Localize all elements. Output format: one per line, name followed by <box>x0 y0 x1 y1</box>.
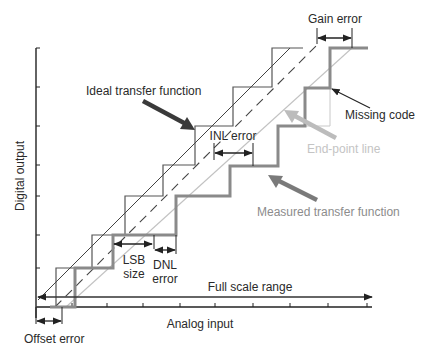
dnl-label-line1: DNL <box>153 258 177 272</box>
endpoint-label: End-point line <box>307 142 381 156</box>
adc-transfer-diagram: Full scale range Offset error Analog inp… <box>0 0 422 358</box>
measured-label: Measured transfer function <box>257 205 400 219</box>
ideal-pointer-arrow <box>143 101 186 124</box>
inl-error-label: INL error <box>210 129 257 143</box>
inl-error-arrow <box>214 143 253 166</box>
x-axis-label: Analog input <box>167 317 234 331</box>
full-scale-label: Full scale range <box>208 280 293 294</box>
measured-pointer-arrow <box>277 180 317 200</box>
gain-error-arrow <box>317 28 352 48</box>
x-axis <box>36 303 372 307</box>
y-axis <box>36 48 40 318</box>
missing-code-label: Missing code <box>345 108 415 122</box>
offset-error-label: Offset error <box>24 332 84 346</box>
ideal-label: Ideal transfer function <box>86 84 201 98</box>
offset-error-arrow <box>36 307 62 324</box>
missing-code-arrow <box>332 89 370 108</box>
dnl-label-line2: error <box>152 272 177 286</box>
lsb-label-line1: LSB <box>123 253 146 267</box>
missing-code-ghost <box>305 88 330 126</box>
y-axis-label: Digital output <box>13 140 27 211</box>
gain-error-label: Gain error <box>308 12 362 26</box>
lsb-label-line2: size <box>123 267 145 281</box>
dnl-error-arrow <box>155 235 176 254</box>
